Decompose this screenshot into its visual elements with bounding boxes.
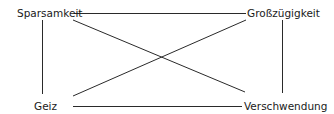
opposition-diagram: Sparsamkeit Großzügigkeit Geiz Verschwen… (0, 0, 334, 114)
node-sparsamkeit: Sparsamkeit (17, 7, 82, 19)
edge-diagonal-tl-br (73, 20, 245, 92)
node-verschwendung: Verschwendung (244, 100, 327, 112)
node-geiz: Geiz (34, 100, 57, 112)
node-grosszuegigkeit: Großzügigkeit (247, 7, 320, 19)
